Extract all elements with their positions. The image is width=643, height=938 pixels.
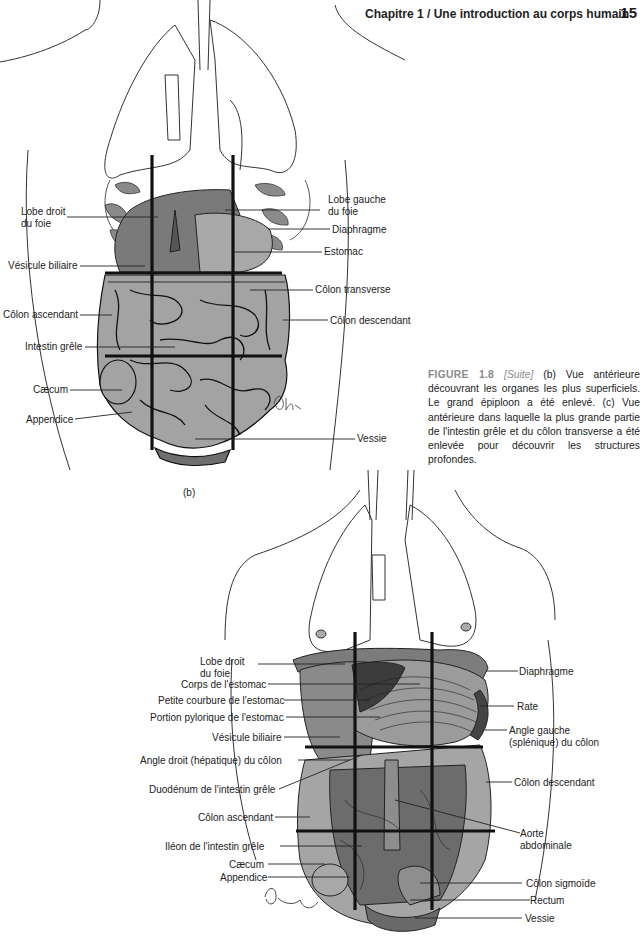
anatomy-illustrations <box>0 0 643 938</box>
label-line: (splénique) du côlon <box>509 737 599 749</box>
signature-c-mark <box>265 888 318 907</box>
label-line: Lobe gauche <box>328 194 386 206</box>
label-line: du foie <box>21 218 65 230</box>
label-ileon: Iléon de l'intestin grêle <box>165 841 264 853</box>
label-line: Angle gauche <box>509 725 599 737</box>
label-line: Lobe droit <box>200 656 255 668</box>
label-diaphragme-b: Diaphragme <box>332 224 386 236</box>
label-colon-ascendant-c: Côlon ascendant <box>198 812 273 824</box>
label-lobe-gauche-du-foie: Lobe gauche du foie <box>328 194 386 218</box>
label-estomac-b: Estomac <box>324 246 363 258</box>
label-appendice-b: Appendice <box>26 414 73 426</box>
label-corps-estomac: Corps de l'estomac <box>181 679 266 691</box>
label-duodenum: Duodénum de l'intestin grêle <box>149 784 275 796</box>
label-lobe-droit-du-foie-c: Lobe droit du foie <box>200 656 255 680</box>
figure-b-sublabel: (b) <box>183 487 195 498</box>
label-caecum-b: Cæcum <box>33 384 68 396</box>
figure-caption: FIGURE 1.8 [Suite] (b) Vue antérieure dé… <box>428 368 640 467</box>
label-rate: Rate <box>517 701 538 713</box>
label-portion-pylorique: Portion pylorique de l'estomac <box>150 712 284 724</box>
label-caecum-c: Cæcum <box>229 859 264 871</box>
caption-text: (b) Vue antérieure découvrant les organe… <box>428 369 640 465</box>
label-appendice-c: Appendice <box>220 872 267 884</box>
label-line: abdominale <box>520 840 572 852</box>
label-aorte-abdominale: Aorte abdominale <box>520 828 572 852</box>
label-lobe-droit-du-foie-b: Lobe droit du foie <box>21 206 65 230</box>
label-colon-ascendant-b: Côlon ascendant <box>3 309 78 321</box>
figure-number: FIGURE 1.8 <box>428 369 494 380</box>
label-angle-gauche-colon: Angle gauche (splénique) du côlon <box>509 725 599 749</box>
caption-suite: Suite <box>507 369 530 380</box>
label-line: du foie <box>328 206 386 218</box>
label-line: Lobe droit <box>21 206 65 218</box>
label-colon-descendant-b: Côlon descendant <box>330 315 411 327</box>
label-colon-descendant-c: Côlon descendant <box>514 777 595 789</box>
label-vesicule-biliaire-c: Vésicule biliaire <box>212 732 281 744</box>
label-intestin-grele-b: Intestin grêle <box>25 341 82 353</box>
caption-bracket-open: [ <box>494 369 507 380</box>
label-vessie-c: Vessie <box>525 913 554 925</box>
label-petite-courbure: Petite courbure de l'estomac <box>158 695 284 707</box>
label-colon-sigmoide: Côlon sigmoïde <box>526 878 595 890</box>
label-diaphragme-c: Diaphragme <box>519 666 573 678</box>
label-angle-droit-colon: Angle droit (hépatique) du côlon <box>140 755 282 767</box>
label-rectum: Rectum <box>530 895 564 907</box>
label-vesicule-biliaire-b: Vésicule biliaire <box>8 260 77 272</box>
label-colon-transverse-b: Côlon transverse <box>315 284 391 296</box>
label-vessie-b: Vessie <box>357 433 386 445</box>
caption-bracket-close: ] <box>530 369 543 380</box>
label-line: Aorte <box>520 828 572 840</box>
